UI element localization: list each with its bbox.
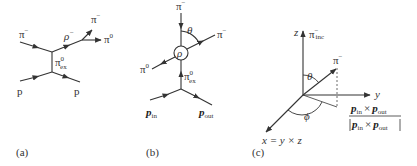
label-normal-numerator: pin×pout bbox=[350, 102, 387, 116]
panel-a: π− ρ− π− π0 π0ex p p (a) bbox=[16, 12, 114, 159]
panel-c: z π−inc y x = y × z π− θ ϕ pin×pout pin×… bbox=[252, 26, 401, 159]
label-rho: ρ− bbox=[63, 29, 74, 42]
proton-incoming-line bbox=[150, 89, 181, 100]
label-pi-zero-out: π0 bbox=[140, 62, 150, 75]
label-pi-minus-in: π− bbox=[176, 0, 186, 12]
proton-outgoing-line bbox=[52, 72, 80, 82]
pi-minus-outgoing-line bbox=[82, 30, 92, 40]
label-pi-minus-out: π− bbox=[91, 12, 101, 25]
label-exchange: π0ex bbox=[184, 69, 196, 85]
label-normal-denominator: pin×pout bbox=[351, 118, 388, 132]
label-pi-minus: π− bbox=[333, 53, 343, 66]
label-p-in: p bbox=[17, 85, 23, 97]
panel-b: ρ θ π− π0 π− π0ex pin pout (b) bbox=[140, 0, 227, 159]
label-pi-minus-out: π− bbox=[217, 27, 227, 40]
caption-c: (c) bbox=[252, 146, 265, 159]
label-rho-circle: ρ bbox=[176, 47, 182, 59]
label-x-axis: x = y × z bbox=[261, 134, 303, 146]
label-pi-minus-in: π− bbox=[19, 27, 29, 40]
label-exchange: π0ex bbox=[55, 55, 67, 71]
caption-b: (b) bbox=[146, 146, 159, 159]
pi-minus-incoming-line bbox=[20, 42, 52, 52]
proton-incoming-line bbox=[20, 72, 52, 81]
label-theta: θ bbox=[307, 70, 313, 82]
caption-a: (a) bbox=[16, 146, 29, 159]
pi-minus-outgoing-line bbox=[187, 35, 215, 49]
label-y-axis: y bbox=[374, 88, 380, 100]
proton-outgoing-line bbox=[181, 89, 212, 105]
label-p-out: pout bbox=[198, 106, 214, 120]
label-p-in: pin bbox=[145, 106, 157, 120]
pi-zero-outgoing-line bbox=[152, 57, 175, 69]
label-phi: ϕ bbox=[304, 110, 310, 122]
label-pi-inc: π−inc bbox=[309, 27, 324, 41]
label-pi-zero-out: π0 bbox=[104, 32, 114, 45]
label-z-axis: z bbox=[293, 26, 299, 38]
label-p-out: p bbox=[74, 85, 80, 97]
physics-diagram: π− ρ− π− π0 π0ex p p (a) ρ θ π− π0 π− π0… bbox=[0, 0, 417, 166]
x-axis bbox=[266, 95, 303, 132]
label-theta: θ bbox=[187, 24, 193, 36]
